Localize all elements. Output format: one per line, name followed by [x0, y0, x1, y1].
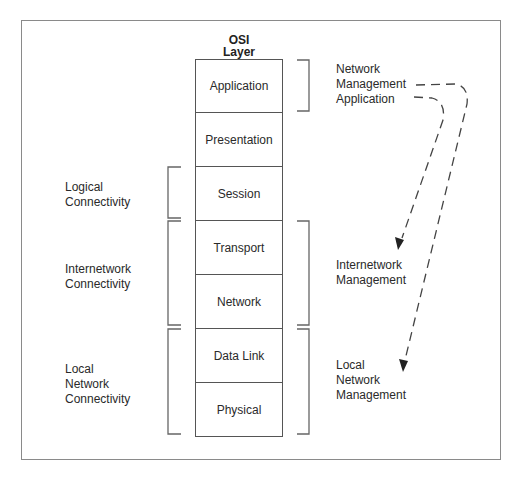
- arrowhead-local-icon: [399, 359, 408, 372]
- arrow-to-local-management: [405, 84, 467, 360]
- arrow-to-internetwork-management: [402, 97, 444, 238]
- bracket-internetwork-mgmt: [297, 221, 309, 325]
- bracket-application: [297, 60, 309, 111]
- bracket-internetwork: [168, 221, 181, 325]
- brackets-and-arrows: [0, 0, 523, 479]
- arrowhead-internetwork-icon: [395, 237, 404, 250]
- bracket-logical: [168, 167, 181, 218]
- bracket-local-mgmt: [297, 329, 309, 434]
- bracket-local-connectivity: [168, 329, 181, 434]
